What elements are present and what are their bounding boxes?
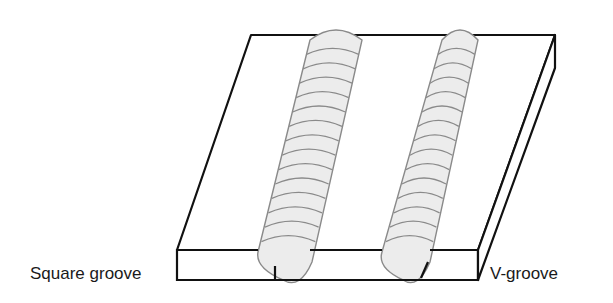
plate-front-face <box>177 250 478 280</box>
weld-plate-diagram <box>0 0 613 303</box>
square-groove-label: Square groove <box>30 265 142 282</box>
v-groove-label: V-groove <box>490 265 558 282</box>
